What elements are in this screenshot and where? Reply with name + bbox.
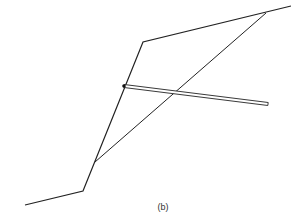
anchor-head-icon — [122, 84, 126, 88]
slip-surface-line — [95, 13, 266, 162]
figure-canvas: (b) — [0, 0, 297, 218]
slope-diagram — [0, 0, 297, 218]
figure-caption: (b) — [0, 202, 297, 212]
anchor-bar — [124, 85, 268, 106]
ground-profile-line — [25, 6, 291, 205]
